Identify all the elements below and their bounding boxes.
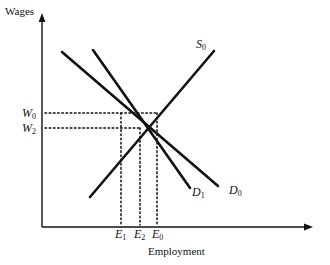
curve-label-d1: D1 xyxy=(192,186,205,198)
x-axis-title: Employment xyxy=(148,246,205,257)
employment-tick-label-e1: E1 xyxy=(115,228,126,240)
x-axis-arrowhead xyxy=(304,224,313,231)
curve-label-base-d0: D xyxy=(229,183,238,197)
curve-label-s0: S0 xyxy=(196,38,206,50)
wage-tick-sub-w2: 2 xyxy=(32,127,36,136)
y-axis-title: Wages xyxy=(5,6,34,17)
employment-tick-sub-e2: 2 xyxy=(141,233,145,242)
demand-curve-d1 xyxy=(93,50,190,188)
labor-market-supply-demand-diagram: Wages Employment W0 W2 E1 E2 E0 S0 D1 D0 xyxy=(0,0,330,265)
employment-tick-label-e0: E0 xyxy=(152,228,163,240)
employment-tick-label-e2: E2 xyxy=(134,228,145,240)
wage-tick-sub-w0: 0 xyxy=(32,112,36,121)
diagram-canvas xyxy=(0,0,330,265)
curve-label-d0: D0 xyxy=(229,184,242,196)
wage-tick-base-w0: W xyxy=(22,106,32,120)
curve-label-sub-s0: 0 xyxy=(202,43,206,52)
y-axis-arrowhead xyxy=(39,13,46,22)
curve-label-sub-d1: 1 xyxy=(201,191,205,200)
employment-tick-sub-e1: 1 xyxy=(122,233,126,242)
curve-label-base-d1: D xyxy=(192,185,201,199)
curve-label-sub-d0: 0 xyxy=(238,189,242,198)
axes-group xyxy=(39,13,313,230)
wage-tick-base-w2: W xyxy=(22,121,32,135)
employment-tick-sub-e0: 0 xyxy=(159,233,163,242)
wage-tick-label-w2: W2 xyxy=(22,122,36,134)
wage-tick-label-w0: W0 xyxy=(22,107,36,119)
guide-lines-group xyxy=(45,113,157,225)
